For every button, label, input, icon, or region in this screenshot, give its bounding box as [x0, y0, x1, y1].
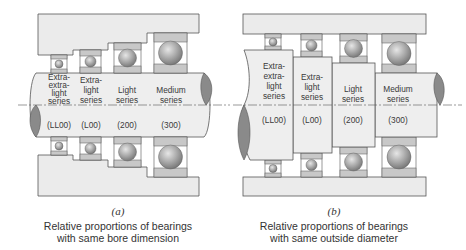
svg-text:(LL00): (LL00): [262, 115, 286, 125]
housing-top-b: [243, 14, 426, 34]
svg-text:(LL00): (LL00): [47, 120, 71, 130]
caption-b: (b) Relative proportions of bearings wit…: [234, 205, 434, 244]
caption-b-line1: Relative proportions of bearings: [234, 220, 434, 232]
panel-a: Extra-extra-lightseries Extra-lightserie…: [18, 14, 230, 196]
caption-a-line2: with same bore dimension: [18, 232, 218, 244]
panel-label-b: (b): [234, 205, 434, 217]
caption-b-line2: with same outside diameter: [234, 232, 434, 244]
svg-text:(200): (200): [117, 120, 137, 130]
svg-text:(200): (200): [343, 115, 363, 125]
panel-b: Extra-extra-lightseries Extra-lightserie…: [233, 14, 462, 196]
svg-text:(L00): (L00): [302, 115, 322, 125]
svg-text:Lightseries: Lightseries: [342, 84, 364, 104]
caption-a: (a) Relative proportions of bearings wit…: [18, 205, 218, 244]
svg-text:Mediumseries: Mediumseries: [383, 84, 413, 104]
svg-text:Lightseries: Lightseries: [116, 85, 138, 105]
panel-label-a: (a): [18, 205, 218, 217]
svg-text:(300): (300): [161, 120, 181, 130]
housing-bottom-b: [243, 177, 426, 196]
svg-text:Mediumseries: Mediumseries: [156, 85, 186, 105]
caption-a-line1: Relative proportions of bearings: [18, 220, 218, 232]
svg-text:(L00): (L00): [81, 120, 101, 130]
svg-text:(300): (300): [388, 115, 408, 125]
svg-text:Extra-extra-lightseries: Extra-extra-lightseries: [48, 72, 70, 106]
